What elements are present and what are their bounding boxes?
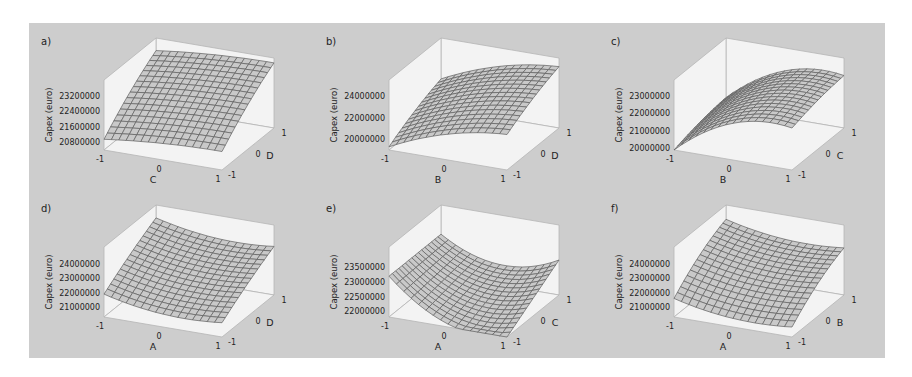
figure-svg: a)20800000216000002240000023200000Capex … [29,23,885,358]
x-axis-label: A [150,341,157,352]
x-tick-label: 1 [785,175,790,184]
x-tick-label: -1 [666,322,674,331]
z-tick-label: 22000000 [344,307,385,316]
x-tick-label: 1 [215,342,220,351]
x-tick-label: 1 [500,342,505,351]
chart-panel-d: d)21000000220000002300000024000000Capex … [41,203,287,352]
y-tick-label: 0 [255,150,260,159]
y-axis-label: B [837,317,844,328]
z-axis-label: Capex (euro) [614,87,624,142]
chart-panel-f: f)21000000220000002300000024000000Capex … [611,203,857,352]
y-tick-label: 0 [540,150,545,159]
y-axis-label: D [266,317,273,328]
chart-panel-a: a)20800000216000002240000023200000Capex … [41,36,287,185]
chart-panel-e: e)22000000225000002300000023500000Capex … [326,203,572,352]
z-tick-label: 20000000 [344,135,385,144]
z-axis-label: Capex (euro) [44,87,54,142]
x-tick-label: -1 [381,322,389,331]
y-axis-label: D [266,150,273,161]
panel-label: d) [41,203,51,214]
x-tick-label: 1 [500,175,505,184]
panel-label: e) [326,203,336,214]
y-tick-label: 1 [566,129,571,138]
y-tick-label: 0 [825,150,830,159]
y-tick-label: 1 [566,296,571,305]
x-tick-label: -1 [96,322,104,331]
x-tick-label: 1 [785,342,790,351]
chart-panel-c: c)20000000210000002200000023000000Capex … [611,36,857,185]
y-axis-label: D [551,150,558,161]
x-tick-label: 0 [441,332,446,341]
x-tick-label: 0 [156,165,161,174]
z-tick-label: 21000000 [629,127,670,136]
z-tick-label: 22000000 [344,114,385,123]
x-axis-label: B [435,174,442,185]
x-tick-label: -1 [96,155,104,164]
x-tick-label: 0 [441,165,446,174]
z-tick-label: 23500000 [344,263,385,272]
z-tick-label: 24000000 [629,260,670,269]
z-tick-label: 23000000 [629,274,670,283]
y-tick-label: 0 [255,317,260,326]
chart-panel-b: b)200000002200000024000000Capex (euro)-1… [326,36,572,185]
panel-label: a) [41,36,51,47]
panel-label: f) [611,203,619,214]
x-tick-label: 1 [215,175,220,184]
x-axis-label: A [435,341,442,352]
z-tick-label: 22000000 [59,289,100,298]
z-tick-label: 22500000 [344,293,385,302]
x-tick-label: -1 [666,155,674,164]
z-tick-label: 21000000 [629,303,670,312]
z-tick-label: 23000000 [59,274,100,283]
y-tick-label: 1 [281,296,286,305]
y-tick-label: -1 [513,171,521,180]
z-axis-label: Capex (euro) [329,254,339,309]
z-axis-label: Capex (euro) [44,254,54,309]
y-tick-label: 1 [281,129,286,138]
y-tick-label: -1 [228,171,236,180]
z-tick-label: 22000000 [629,109,670,118]
z-tick-label: 21000000 [59,303,100,312]
panel-label: c) [611,36,620,47]
x-axis-label: C [150,174,157,185]
z-tick-label: 22000000 [629,289,670,298]
y-axis-label: C [552,317,559,328]
z-tick-label: 24000000 [344,92,385,101]
z-tick-label: 23000000 [629,92,670,101]
x-tick-label: 0 [726,332,731,341]
x-axis-label: A [720,341,727,352]
y-tick-label: -1 [798,171,806,180]
x-tick-label: -1 [381,155,389,164]
z-tick-label: 23000000 [344,278,385,287]
z-tick-label: 22400000 [59,107,100,116]
figure: a)20800000216000002240000023200000Capex … [29,23,885,358]
y-tick-label: 1 [851,296,856,305]
z-axis-label: Capex (euro) [329,87,339,142]
panel-label: b) [326,36,336,47]
x-tick-label: 0 [726,165,731,174]
z-tick-label: 21600000 [59,123,100,132]
y-tick-label: 1 [851,129,856,138]
y-tick-label: -1 [798,338,806,347]
y-axis-label: C [837,150,844,161]
z-tick-label: 20800000 [59,138,100,147]
z-tick-label: 23200000 [59,92,100,101]
z-tick-label: 24000000 [59,260,100,269]
z-tick-label: 20000000 [629,144,670,153]
x-tick-label: 0 [156,332,161,341]
y-tick-label: -1 [513,338,521,347]
y-tick-label: 0 [825,317,830,326]
z-axis-label: Capex (euro) [614,254,624,309]
y-tick-label: 0 [540,317,545,326]
x-axis-label: B [720,174,727,185]
y-tick-label: -1 [228,338,236,347]
